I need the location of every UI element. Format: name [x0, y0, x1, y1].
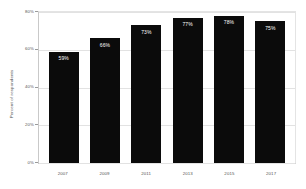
- bar-value-label: 73%: [131, 29, 161, 35]
- bars-layer: 59%66%73%77%78%75%: [39, 12, 295, 163]
- bar-2011: 73%: [131, 25, 161, 163]
- x-tick-label-2011: 2011: [131, 169, 161, 179]
- bar-slot: 75%: [255, 12, 285, 163]
- bar-value-label: 75%: [255, 25, 285, 31]
- gridline-0pct: [39, 163, 295, 164]
- y-tick-label: 80%: [4, 9, 34, 14]
- bar-2015: 78%: [214, 16, 244, 163]
- y-tick-label: 60%: [4, 46, 34, 51]
- y-tick-label: 40%: [4, 84, 34, 89]
- y-tick-label: 0%: [4, 160, 34, 165]
- x-tick-label-2007: 2007: [48, 169, 78, 179]
- x-tick-label-2009: 2009: [89, 169, 119, 179]
- bar-2009: 66%: [90, 38, 120, 163]
- bar-slot: 59%: [49, 12, 79, 163]
- x-tick-label-2013: 2013: [173, 169, 203, 179]
- bar-chart: Percent of respondents 80%60%40%20%0% 59…: [0, 0, 306, 189]
- bar-slot: 73%: [131, 12, 161, 163]
- y-axis-title: Percent of respondents: [7, 38, 17, 150]
- bar-slot: 77%: [173, 12, 203, 163]
- bar-value-label: 77%: [173, 21, 203, 27]
- x-axis-tick-labels: 200720092011201320152017: [38, 169, 296, 179]
- bar-value-label: 66%: [90, 42, 120, 48]
- bar-value-label: 78%: [214, 19, 244, 25]
- plot-area: 59%66%73%77%78%75%: [38, 11, 296, 164]
- x-tick-label-2017: 2017: [256, 169, 286, 179]
- x-tick-label-2015: 2015: [214, 169, 244, 179]
- bar-2013: 77%: [173, 18, 203, 163]
- bar-value-label: 59%: [49, 55, 79, 61]
- bar-slot: 66%: [90, 12, 120, 163]
- bar-2007: 59%: [49, 52, 79, 163]
- bar-slot: 78%: [214, 12, 244, 163]
- bar-2017: 75%: [255, 21, 285, 163]
- y-tick-label: 20%: [4, 122, 34, 127]
